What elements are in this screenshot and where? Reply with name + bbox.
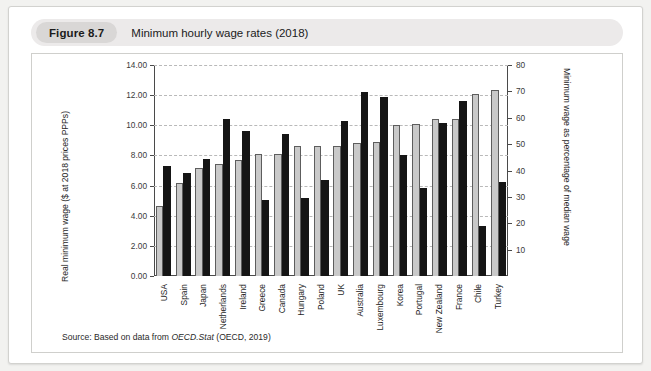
y-axis-left-tick-label: 4.00 [131,211,154,221]
x-axis-tick-label: Portugal [411,282,427,344]
x-axis-tick-label-text: Netherlands [218,284,228,329]
source-text-after: (OECD, 2019) [214,332,271,342]
bar-percentage-of-median[interactable] [294,146,301,276]
x-axis-tick-label-text: Australia [355,284,365,317]
bar-group[interactable] [274,65,289,276]
x-axis-tick-label-text: Poland [316,284,326,310]
bar-percentage-of-median[interactable] [195,168,202,277]
bar-percentage-of-median[interactable] [333,146,340,276]
x-axis-tick-label-text: Portugal [414,284,424,315]
bar-percentage-of-median[interactable] [235,160,242,276]
bar-group[interactable] [452,65,467,276]
bar-real-minimum-wage[interactable] [163,166,170,276]
bar-percentage-of-median[interactable] [215,164,222,276]
y-axis-left-tick-label: 8.00 [131,150,154,160]
plot-area: 0.002.004.006.008.0010.0012.0014.00 1020… [154,65,508,276]
bar-group[interactable] [333,65,348,276]
bar-real-minimum-wage[interactable] [420,188,427,276]
source-note: Source: Based on data from OECD.Stat (OE… [62,332,271,342]
bar-real-minimum-wage[interactable] [499,182,506,276]
bar-group[interactable] [412,65,427,276]
x-axis-tick-label-text: USA [159,284,169,301]
bar-real-minimum-wage[interactable] [439,123,446,276]
bar-real-minimum-wage[interactable] [301,198,308,276]
y-axis-left-tick-label: 10.00 [126,120,154,130]
bar-real-minimum-wage[interactable] [242,131,249,276]
bar-group[interactable] [215,65,230,276]
bar-group[interactable] [314,65,329,276]
bar-percentage-of-median[interactable] [353,143,360,276]
bar-group[interactable] [353,65,368,276]
bar-percentage-of-median[interactable] [472,94,479,276]
bar-real-minimum-wage[interactable] [400,155,407,276]
bar-percentage-of-median[interactable] [452,119,459,276]
x-axis-tick-label-text: New Zealand [434,284,444,333]
bar-real-minimum-wage[interactable] [183,173,190,276]
bar-real-minimum-wage[interactable] [262,200,269,276]
x-axis-tick-label-text: Hungary [296,284,306,316]
bar-group[interactable] [373,65,388,276]
bar-percentage-of-median[interactable] [314,146,321,276]
x-axis-tick-label-text: France [454,284,464,310]
y-axis-left-tick-label: 6.00 [131,181,154,191]
bar-real-minimum-wage[interactable] [282,134,289,276]
x-axis-tick-label: Korea [392,282,408,344]
x-axis-tick-label: France [451,282,467,344]
bar-real-minimum-wage[interactable] [380,97,387,276]
x-axis-tick-label: New Zealand [431,282,447,344]
bar-group[interactable] [432,65,447,276]
y-axis-left-tick-label: 14.00 [126,60,154,70]
bar-group[interactable] [294,65,309,276]
bar-percentage-of-median[interactable] [393,125,400,276]
bar-real-minimum-wage[interactable] [223,119,230,276]
bar-group[interactable] [393,65,408,276]
y-axis-left-tick-label: 0.00 [131,271,154,281]
chart-container: Real minimum wage ($ at 2018 prices PPPs… [31,53,623,353]
figure-number-badge: Figure 8.7 [36,22,117,43]
x-axis-tick-label: Luxembourg [372,282,388,344]
bar-group[interactable] [255,65,270,276]
bar-group[interactable] [491,65,506,276]
y-axis-right-title: Minimum wage as percentage of median wag… [562,68,572,246]
y-axis-right-tick-label: 40 [508,166,525,176]
x-axis-tick-label-text: Spain [179,284,189,305]
screenshot-root: Figure 8.7 Minimum hourly wage rates (20… [0,0,651,371]
bar-group[interactable] [235,65,250,276]
x-axis-tick-label-text: Luxembourg [375,284,385,331]
y-axis-left-title: Real minimum wage ($ at 2018 prices PPPs… [60,111,70,282]
bar-group[interactable] [472,65,487,276]
x-axis-tick-label: Canada [274,282,290,344]
y-axis-right-tick-label: 60 [508,113,525,123]
bar-percentage-of-median[interactable] [491,90,498,276]
bar-percentage-of-median[interactable] [432,119,439,276]
y-axis-right-tick-label: 30 [508,192,525,202]
bar-percentage-of-median[interactable] [373,142,380,276]
y-axis-right-tick-label: 20 [508,218,525,228]
bar-real-minimum-wage[interactable] [459,101,466,276]
bar-group[interactable] [195,65,210,276]
bar-groups [154,65,508,276]
x-axis-tick-label-text: UK [336,284,346,296]
x-axis-tick-label: Hungary [293,282,309,344]
bar-group[interactable] [156,65,171,276]
figure-title: Minimum hourly wage rates (2018) [131,27,308,39]
bar-percentage-of-median[interactable] [255,154,262,276]
bar-group[interactable] [176,65,191,276]
bar-real-minimum-wage[interactable] [361,92,368,276]
bar-percentage-of-median[interactable] [412,124,419,276]
x-axis-tick-label-text: Korea [395,284,405,306]
source-italic: OECD.Stat [171,332,214,342]
x-axis-tick-label-text: Turkey [493,284,503,309]
x-axis-tick-label: Chile [470,282,486,344]
y-axis-left-tick-label: 2.00 [131,241,154,251]
figure-header: Figure 8.7 Minimum hourly wage rates (20… [31,19,623,46]
x-axis-tick-label-text: Greece [257,284,267,311]
bar-real-minimum-wage[interactable] [321,180,328,276]
bar-real-minimum-wage[interactable] [479,226,486,276]
bar-real-minimum-wage[interactable] [203,159,210,276]
bar-real-minimum-wage[interactable] [341,121,348,276]
bar-percentage-of-median[interactable] [156,206,163,276]
y-axis-right-tick-label: 80 [508,60,525,70]
bar-percentage-of-median[interactable] [274,154,281,276]
bar-percentage-of-median[interactable] [176,183,183,276]
